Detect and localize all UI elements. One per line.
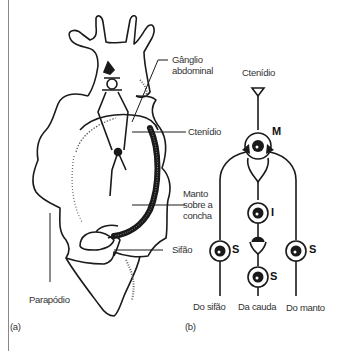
- label-ganglio: Gânglio abdominal: [172, 54, 213, 76]
- label-ganglio-line2: abdominal: [172, 65, 213, 76]
- panel-b-label: (b): [185, 321, 196, 332]
- label-manto: Manto sobre a concha: [183, 188, 213, 221]
- label-manto-line3: concha: [183, 210, 213, 221]
- panel-a-label: (a): [10, 321, 21, 332]
- abdominal-ganglion: [98, 62, 128, 196]
- label-ctenidio-a: Ctenídio: [188, 126, 221, 137]
- aplysia-body: [33, 16, 170, 316]
- input-label-sifao: Do sifão: [193, 301, 225, 312]
- input-label-manto: Do manto: [286, 302, 325, 313]
- node-label-sensory-left: S: [232, 243, 239, 255]
- label-manto-line2: sobre a: [183, 199, 213, 210]
- node-label-sensory-center: S: [270, 270, 277, 282]
- input-label-cauda: Da cauda: [238, 301, 276, 312]
- circuit-diagram: [210, 88, 306, 296]
- label-sifao: Sifão: [172, 244, 192, 255]
- node-label-sensory-right: S: [309, 243, 316, 255]
- label-manto-line1: Manto: [183, 188, 213, 199]
- label-ctenidio-b: Ctenídio: [242, 67, 275, 78]
- label-ganglio-line1: Gânglio: [172, 54, 213, 65]
- node-label-interneuron: I: [271, 206, 274, 218]
- label-parapodio: Parapódio: [29, 294, 70, 305]
- node-label-motor: M: [272, 125, 281, 137]
